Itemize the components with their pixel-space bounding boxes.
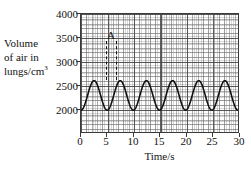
chart-figure: Volume of air in lungs/cm3 4000 3500 300… — [0, 0, 251, 172]
y-axis-label-line-3-text: lungs/cm — [4, 65, 44, 77]
x-tick-label: 20 — [174, 136, 198, 147]
y-tick-label: 3000 — [42, 57, 78, 68]
y-tick-label: 2500 — [42, 81, 78, 92]
y-tick-label: 4000 — [42, 9, 78, 20]
annotation-label-a: A — [104, 30, 118, 41]
y-tick-label: 3500 — [42, 33, 78, 44]
x-tick-label: 10 — [121, 136, 145, 147]
trace-path — [81, 81, 238, 111]
x-axis-label: Time/s — [80, 150, 239, 162]
x-tick-label: 0 — [68, 136, 92, 147]
x-tick-label: 15 — [147, 136, 171, 147]
y-tick-label: 2000 — [42, 105, 78, 116]
x-tick-label: 5 — [94, 136, 118, 147]
annotation-dashed-line-left — [106, 41, 107, 80]
x-tick-label: 25 — [200, 136, 224, 147]
x-tick-label: 30 — [227, 136, 251, 147]
annotation-dashed-line-right — [116, 41, 117, 80]
